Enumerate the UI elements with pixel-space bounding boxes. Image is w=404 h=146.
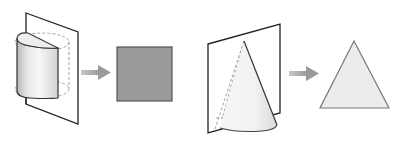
arrow-right-icon — [289, 66, 319, 81]
diagram-svg — [0, 0, 404, 146]
cylinder-panel — [15, 13, 78, 124]
triangle-cross-section — [320, 41, 389, 108]
cone-panel — [208, 24, 280, 133]
cross-section-diagram — [0, 0, 404, 146]
half-cone-body — [220, 41, 277, 132]
arrow-right-icon — [81, 65, 111, 80]
rectangle-cross-section — [117, 47, 172, 101]
